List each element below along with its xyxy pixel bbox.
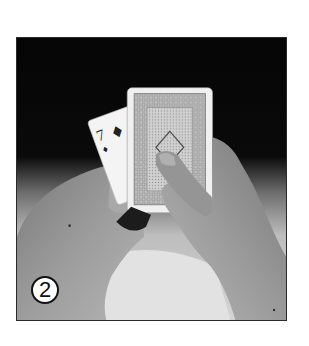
step-number-badge: 2	[31, 276, 59, 304]
card-trick-photo: 7 ♦ ♦	[17, 38, 286, 320]
photo-frame: 7 ♦ ♦ 2	[16, 37, 287, 321]
